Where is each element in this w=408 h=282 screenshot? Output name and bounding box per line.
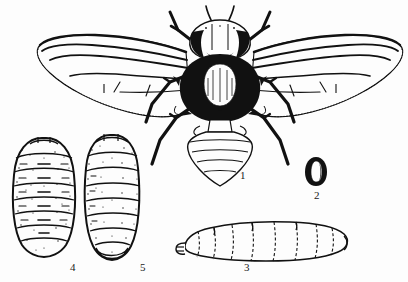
- egg-figure: [305, 157, 327, 186]
- left-wing: [37, 35, 191, 117]
- figure-label-2: 2: [314, 190, 320, 201]
- figure-label-4: 4: [70, 262, 76, 273]
- figure-label-5: 5: [140, 262, 146, 273]
- puparium-lateral-figure: [85, 134, 140, 260]
- puparium-dorsal-figure: [13, 137, 75, 257]
- larva-figure: [176, 222, 347, 261]
- right-wing: [249, 35, 403, 117]
- figure-label-3: 3: [244, 262, 250, 273]
- plate-drawing: [0, 0, 408, 282]
- figure-label-1: 1: [240, 170, 246, 181]
- illustration-plate: 1 2 3 4 5: [0, 0, 408, 282]
